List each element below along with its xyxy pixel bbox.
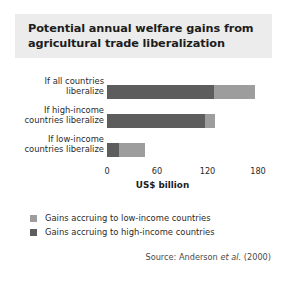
bar-segment-low-income — [205, 114, 215, 128]
chart-legend: Gains accruing to low-income countries G… — [30, 211, 270, 239]
bar-segment-high-income — [107, 85, 214, 99]
legend-label: Gains accruing to low-income countries — [45, 213, 211, 223]
x-tick-label: 180 — [250, 166, 266, 176]
legend-item-low-income: Gains accruing to low-income countries — [30, 211, 270, 225]
bar-segment-low-income — [119, 143, 145, 157]
category-label-low-income: If low-income countries liberalize — [12, 134, 104, 154]
bar-row: If low-income countries liberalize — [0, 134, 285, 164]
legend-swatch-high-income — [30, 229, 37, 236]
page-title: Potential annual welfare gains from agri… — [28, 21, 266, 51]
source-note: Source: Anderson et al. (2000) — [145, 252, 271, 262]
bar-segment-low-income — [214, 85, 254, 99]
legend-item-high-income: Gains accruing to high-income countries — [30, 225, 270, 239]
source-prefix: Source: Anderson — [145, 252, 220, 262]
x-axis: 0 60 120 180 US$ billion — [0, 166, 285, 200]
bar-segment-high-income — [107, 143, 119, 157]
plot-area: If all countries liberalize If high-inco… — [0, 72, 285, 172]
source-suffix: (2000) — [241, 252, 271, 262]
category-label-line: countries liberalize — [12, 144, 104, 154]
category-label-line: countries liberalize — [12, 115, 104, 125]
chart-figure: Potential annual welfare gains from agri… — [0, 0, 285, 283]
category-label-line: If low-income — [12, 134, 104, 144]
x-tick-label: 0 — [104, 166, 109, 176]
bar-segment-high-income — [107, 114, 205, 128]
chart-title-panel: Potential annual welfare gains from agri… — [15, 14, 272, 58]
stacked-bar-all-countries — [107, 85, 255, 99]
category-label-line: If all countries — [12, 76, 104, 86]
category-label-all-countries: If all countries liberalize — [12, 76, 104, 96]
x-tick-label: 60 — [152, 166, 162, 176]
legend-label: Gains accruing to high-income countries — [45, 227, 215, 237]
bar-row: If high-income countries liberalize — [0, 105, 285, 135]
legend-swatch-low-income — [30, 215, 37, 222]
bar-row: If all countries liberalize — [0, 76, 285, 106]
x-tick-label: 120 — [200, 166, 216, 176]
source-italic: et al. — [220, 252, 241, 262]
x-axis-title: US$ billion — [0, 180, 285, 190]
stacked-bar-high-income — [107, 114, 215, 128]
category-label-high-income: If high-income countries liberalize — [12, 105, 104, 125]
category-label-line: liberalize — [12, 86, 104, 96]
category-label-line: If high-income — [12, 105, 104, 115]
stacked-bar-low-income — [107, 143, 145, 157]
